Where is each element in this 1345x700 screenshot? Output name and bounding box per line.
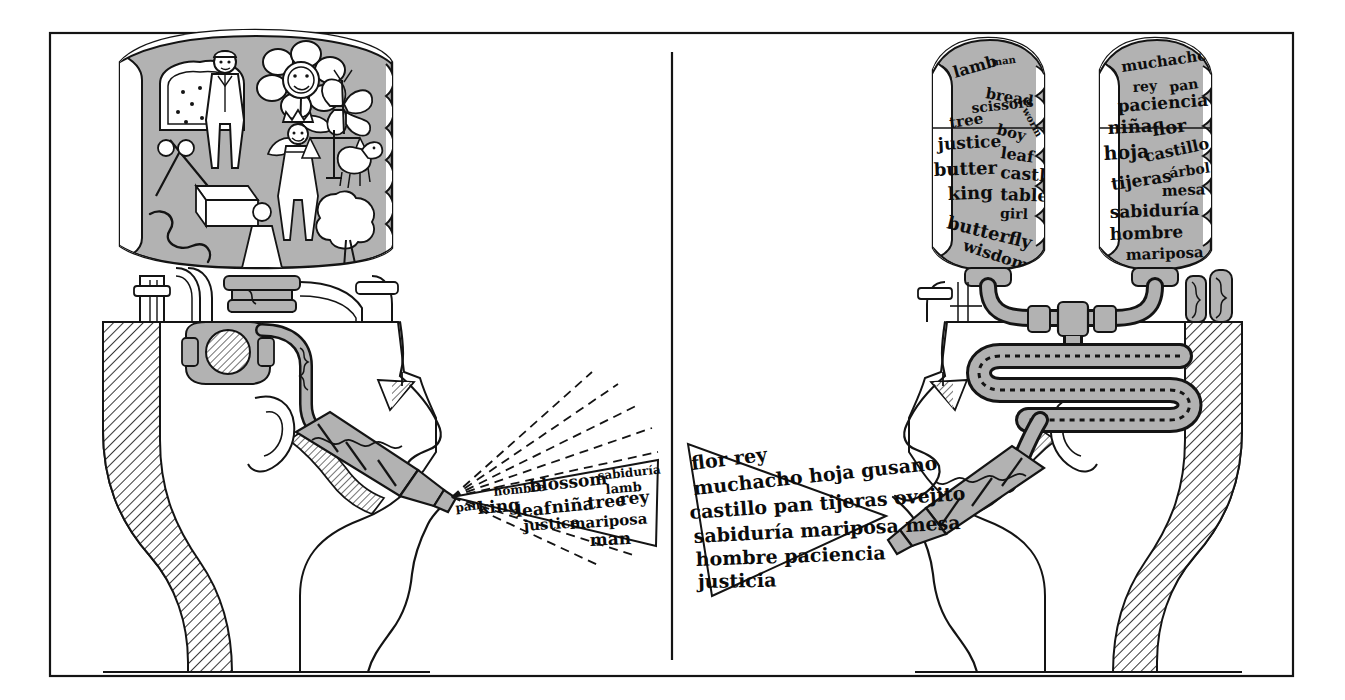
tank-word: niña [1107,115,1153,138]
bilingual-head-panel: lamb man bread worm scissors tree boy ju… [688,30,1242,672]
tank-word: girl [1000,205,1028,222]
tank-word: king [947,181,993,204]
cone-word: rey [619,486,651,509]
manifold-band-left [182,338,198,366]
tank-word: butter [933,157,997,180]
figure-root: hombre blossom sabiduría lamb pan king l… [0,0,1345,700]
left-pipe-cluster [134,268,212,322]
column-collar-1 [224,276,300,290]
pipe-coupling-right [1094,306,1116,332]
tank-word: justice [935,131,1002,154]
english-word-tank: lamb man bread worm scissors tree boy ju… [925,30,1057,278]
butter-icon [196,186,258,226]
picture-tank [110,26,394,276]
manifold-valve [206,330,250,374]
right-pipe-cluster [300,276,398,322]
manifold-band-right [258,338,274,366]
spanish-word-tank: muchacho rey pan paciencia niña flor hoj… [1092,30,1214,278]
tank-rim-left-band [110,50,142,262]
pipe-coupling-left [1028,306,1050,332]
cone-word: man [589,528,631,550]
monolingual-head-panel: hombre blossom sabiduría lamb pan king l… [103,26,661,672]
tank-word: hombre [1109,221,1183,244]
tank-word: mariposa [1126,243,1205,264]
tank-word: table [1000,184,1049,206]
column-collar-2 [228,300,296,312]
tank-word: mesa [1162,180,1206,200]
speech-cone: hombre blossom sabiduría lamb pan king l… [455,462,662,550]
tank-word: hoja [1103,140,1150,164]
tank-word: rey [1132,77,1158,95]
cone-line: justicia [696,569,777,592]
lips-profile [368,497,452,672]
accessory-pipes-right [1186,270,1232,322]
figure-canvas: hombre blossom sabiduría lamb pan king l… [0,0,1345,700]
tank-word: sabiduría [1109,199,1199,222]
tank-word: castle [1000,162,1058,186]
speech-cone: flor rey muchacho hoja gusano castillo p… [689,443,966,592]
junction-valve [1058,302,1088,336]
accessory-pipes-left [918,282,982,322]
